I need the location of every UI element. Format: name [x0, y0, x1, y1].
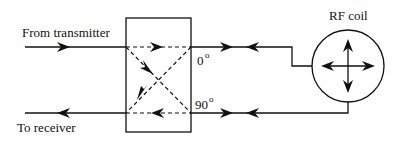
arrow-diagonal-down-right-icon [140, 60, 153, 74]
transmitter-input-line [25, 42, 126, 52]
rf-coil [312, 30, 384, 102]
receiver-output-line [25, 108, 126, 118]
arrow-right-icon [150, 42, 163, 52]
port-90-line [191, 102, 348, 118]
to-receiver-label: To receiver [17, 120, 76, 135]
rf-coil-label: RF coil [329, 8, 368, 23]
port-0-degree: o [205, 50, 210, 60]
port-90-degree: o [209, 94, 214, 104]
diagram-canvas: From transmitter To receiver RF coil 0 o… [0, 0, 404, 142]
hybrid-internal-paths [126, 47, 191, 113]
port-0-label: 0 [197, 53, 204, 68]
port-90-label: 90 [195, 97, 208, 112]
from-transmitter-label: From transmitter [22, 25, 110, 40]
